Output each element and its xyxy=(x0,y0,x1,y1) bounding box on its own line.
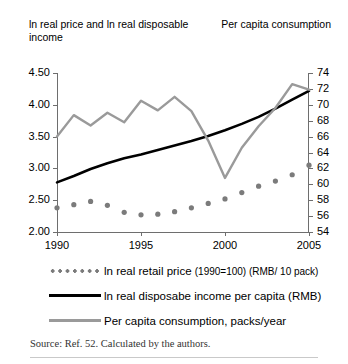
x-tick-label: 2000 xyxy=(195,239,255,251)
legend: ln real retail price (1990=100) (RMB/ 10… xyxy=(46,258,336,333)
x-tick-label: 2005 xyxy=(279,239,339,251)
left-tick-label: 2.50 xyxy=(10,193,50,205)
left-tick-label: 4.00 xyxy=(10,98,50,110)
data-point xyxy=(189,205,194,210)
right-tick-label: 56 xyxy=(317,209,348,221)
figure-container: ln real price and ln real disposable inc… xyxy=(0,0,348,364)
series-line xyxy=(57,84,309,178)
right-tick-label: 58 xyxy=(317,193,348,205)
left-tick-label: 4.50 xyxy=(10,66,50,78)
right-axis-caption: Per capita consumption xyxy=(221,18,331,31)
left-axis-caption: ln real price and ln real disposable inc… xyxy=(29,18,189,44)
left-tick-label: 3.50 xyxy=(10,130,50,142)
data-point xyxy=(122,210,127,215)
left-tick-label: 3.00 xyxy=(10,161,50,173)
legend-item-price: ln real retail price (1990=100) (RMB/ 10… xyxy=(46,258,336,283)
data-point xyxy=(273,179,278,184)
legend-label-price: ln real retail price (1990=100) (RMB/ 10… xyxy=(104,265,318,277)
legend-label-income: ln real disposabe income per capita (RMB… xyxy=(104,290,321,302)
right-tick-label: 70 xyxy=(317,98,348,110)
x-tick-label: 1995 xyxy=(111,239,171,251)
right-tick-label: 68 xyxy=(317,114,348,126)
data-point xyxy=(239,190,244,195)
data-point xyxy=(256,184,261,189)
data-point xyxy=(138,212,143,217)
legend-item-consumption: Per capita consumption, packs/year xyxy=(46,308,336,333)
left-tick-label: 2.00 xyxy=(10,225,50,237)
data-point xyxy=(206,201,211,206)
bottom-divider xyxy=(30,357,318,358)
data-point xyxy=(54,205,59,210)
right-tick-label: 60 xyxy=(317,177,348,189)
x-tick-label: 1990 xyxy=(27,239,87,251)
solid-black-line-icon xyxy=(46,294,104,297)
data-point xyxy=(88,199,93,204)
data-point xyxy=(105,203,110,208)
data-point xyxy=(172,209,177,214)
right-tick-label: 62 xyxy=(317,161,348,173)
series-plot xyxy=(57,73,309,232)
data-point xyxy=(290,172,295,177)
right-tick-label: 54 xyxy=(317,225,348,237)
data-point xyxy=(71,202,76,207)
data-point xyxy=(306,163,311,168)
right-tick-label: 74 xyxy=(317,66,348,78)
x-axis-line xyxy=(57,232,309,233)
solid-gray-line-icon xyxy=(46,319,104,322)
data-point xyxy=(155,212,160,217)
source-note: Source: Ref. 52. Calculated by the autho… xyxy=(30,338,211,349)
right-tick-label: 72 xyxy=(317,82,348,94)
right-tick-label: 64 xyxy=(317,146,348,158)
legend-label-consumption: Per capita consumption, packs/year xyxy=(104,315,286,327)
dotted-marker-icon xyxy=(46,269,104,273)
right-tick-label: 66 xyxy=(317,130,348,142)
data-point xyxy=(222,196,227,201)
legend-item-income: ln real disposabe income per capita (RMB… xyxy=(46,283,336,308)
plot-area: 2.002.503.003.504.004.50 545658606264666… xyxy=(57,73,309,232)
